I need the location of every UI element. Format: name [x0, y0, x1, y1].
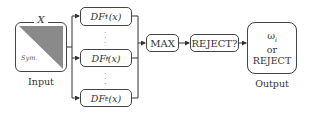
input-caption: Input: [15, 76, 67, 87]
output-or: or: [267, 44, 277, 55]
input-matrix: [15, 22, 67, 72]
output-class: ωi: [267, 30, 277, 45]
df-box-1: DF*1(x): [80, 7, 132, 26]
output-box: ωi or REJECT: [247, 22, 297, 74]
df-box-i: DF*i(x): [80, 49, 132, 67]
output-reject: REJECT: [253, 55, 291, 66]
max-box: MAX: [146, 34, 179, 52]
symmetric-label: Sym.: [21, 54, 37, 62]
output-caption: Output: [247, 78, 297, 89]
reject-decision-box: REJECT?: [190, 34, 239, 52]
ellipsis-bottom: ···: [104, 71, 107, 86]
df-box-c: DF*c(x): [80, 89, 132, 107]
ellipsis-top: ···: [104, 30, 107, 45]
matrix-label: X: [34, 14, 48, 25]
df-name: DF: [91, 11, 105, 22]
